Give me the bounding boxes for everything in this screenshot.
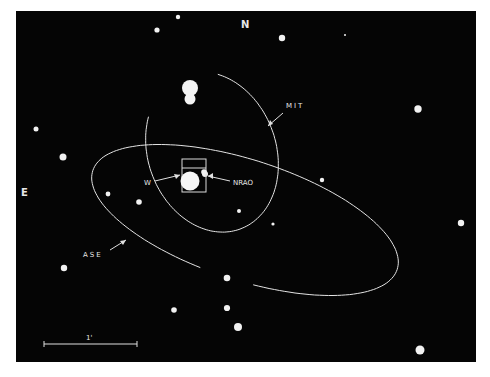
- star: [344, 34, 346, 36]
- star: [414, 105, 421, 112]
- star: [176, 15, 180, 19]
- star: [271, 222, 274, 225]
- star: [458, 220, 464, 226]
- star: [61, 265, 67, 271]
- star: [136, 199, 142, 205]
- w-label: W: [144, 179, 151, 187]
- star: [171, 307, 177, 313]
- finding-chart: N E MIT ASE W NRAO 1': [0, 0, 490, 377]
- star: [224, 275, 231, 282]
- nrao-label: NRAO: [233, 179, 253, 187]
- ase-label: ASE: [83, 251, 103, 259]
- star: [234, 323, 242, 331]
- east-label: E: [21, 187, 28, 198]
- scale-label: 1': [86, 334, 92, 342]
- north-label: N: [241, 19, 249, 30]
- star: [60, 154, 67, 161]
- nrao-source: [201, 169, 207, 175]
- star: [320, 178, 324, 182]
- star: [237, 209, 241, 213]
- w-source: [181, 172, 200, 191]
- star: [279, 35, 285, 41]
- mit-label: MIT: [286, 102, 304, 110]
- star: [106, 192, 111, 197]
- star: [154, 27, 159, 32]
- star: [416, 346, 425, 355]
- star: [34, 127, 39, 132]
- star: [224, 305, 230, 311]
